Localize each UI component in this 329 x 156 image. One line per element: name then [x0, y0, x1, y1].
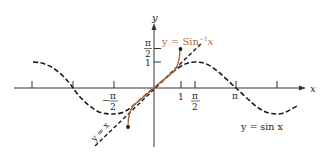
x-axis-arrow-icon: [299, 86, 306, 91]
svg-text:π: π: [145, 38, 151, 48]
arcsin-endpoint-top: [179, 47, 183, 51]
y-tick-label-1: 1: [145, 58, 151, 68]
arcsin-label: y = Sin−1x: [161, 35, 214, 47]
svg-text:2: 2: [192, 102, 198, 112]
y-tick-label-pi-over-2: π 2: [144, 38, 152, 59]
x-axis: [14, 86, 306, 91]
y-ticks: [154, 49, 161, 63]
svg-text:π: π: [192, 91, 198, 101]
svg-text:−: −: [102, 95, 110, 105]
y-axis-label: y: [151, 12, 158, 23]
svg-text:π: π: [110, 91, 116, 101]
x-axis-label: x: [310, 83, 316, 94]
y-axis-arrow-icon: [152, 23, 157, 30]
y-axis: [152, 23, 157, 147]
x-tick-label-1: 1: [178, 92, 184, 102]
x-tick-label-neg-pi-over-2: − π 2: [102, 91, 118, 112]
sin-arcsin-graph: y x 1 π 2 − π 2 1 π 2 π y = Sin−1x y = s…: [0, 0, 329, 156]
x-tick-label-pi: π: [232, 91, 238, 101]
svg-text:2: 2: [110, 102, 116, 112]
arcsin-endpoint-bottom: [126, 125, 130, 129]
x-tick-label-pi-over-2: π 2: [191, 91, 200, 112]
svg-text:2: 2: [145, 49, 151, 59]
sin-label: y = sin x: [240, 121, 283, 132]
